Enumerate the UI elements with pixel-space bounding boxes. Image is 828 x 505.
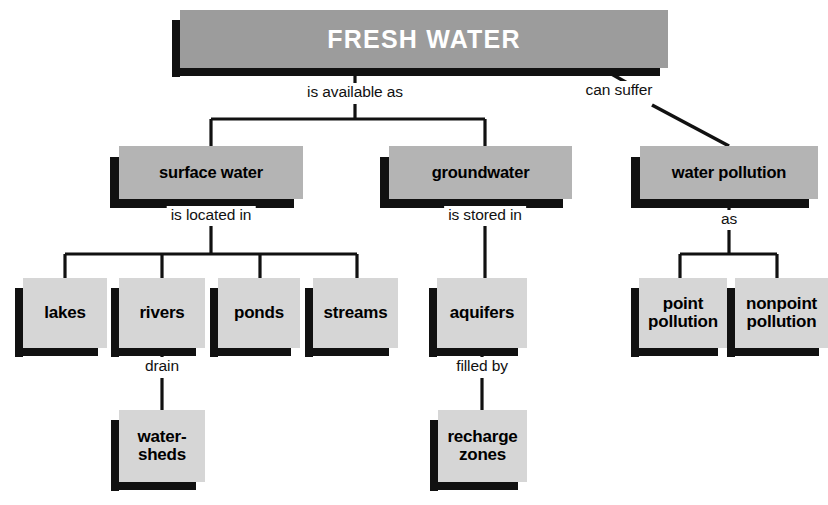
edge-label-is-located-in: is located in xyxy=(167,206,256,224)
node-nonpoint-pollution-label-line2: pollution xyxy=(747,313,817,331)
edge-label-drain: drain xyxy=(141,357,183,375)
node-groundwater[interactable]: groundwater xyxy=(389,146,572,199)
node-watersheds[interactable]: water- sheds xyxy=(119,410,205,482)
node-watersheds-label-line1: water- xyxy=(138,428,187,446)
concept-map-canvas: FRESH WATER surface water groundwater wa… xyxy=(0,0,828,505)
node-nonpoint-pollution[interactable]: nonpoint pollution xyxy=(735,278,828,348)
node-ponds-label: ponds xyxy=(234,304,284,322)
node-fresh-water-label: FRESH WATER xyxy=(327,26,520,53)
node-ponds[interactable]: ponds xyxy=(218,278,300,348)
edge-label-is-stored-in: is stored in xyxy=(444,206,526,224)
edge-label-is-available-as: is available as xyxy=(303,83,407,101)
node-aquifers-label: aquifers xyxy=(450,304,515,322)
node-rivers-label: rivers xyxy=(139,304,184,322)
node-water-pollution[interactable]: water pollution xyxy=(640,146,818,199)
node-recharge-zones-label-line1: recharge xyxy=(447,428,517,446)
node-surface-water-label: surface water xyxy=(159,164,263,182)
node-rivers[interactable]: rivers xyxy=(119,278,205,348)
node-surface-water[interactable]: surface water xyxy=(119,146,303,199)
node-lakes-label: lakes xyxy=(44,304,86,322)
node-aquifers[interactable]: aquifers xyxy=(437,278,527,348)
node-nonpoint-pollution-label-line1: nonpoint xyxy=(746,295,817,313)
edge-label-can-suffer: can suffer xyxy=(582,81,657,99)
edge-label-as: as xyxy=(717,210,741,228)
node-fresh-water[interactable]: FRESH WATER xyxy=(180,10,668,68)
node-streams-label: streams xyxy=(324,304,388,322)
node-groundwater-label: groundwater xyxy=(432,164,530,182)
edge-can-suffer-lower xyxy=(652,105,729,146)
node-point-pollution-label-line1: point xyxy=(663,295,704,313)
node-streams[interactable]: streams xyxy=(313,278,398,348)
node-recharge-zones[interactable]: recharge zones xyxy=(438,410,527,482)
node-point-pollution-label-line2: pollution xyxy=(648,313,718,331)
node-recharge-zones-label-line2: zones xyxy=(459,446,506,464)
node-water-pollution-label: water pollution xyxy=(672,164,786,182)
node-lakes[interactable]: lakes xyxy=(23,278,107,348)
node-point-pollution[interactable]: point pollution xyxy=(639,278,727,348)
edge-label-filled-by: filled by xyxy=(452,357,512,375)
node-watersheds-label-line2: sheds xyxy=(138,446,186,464)
